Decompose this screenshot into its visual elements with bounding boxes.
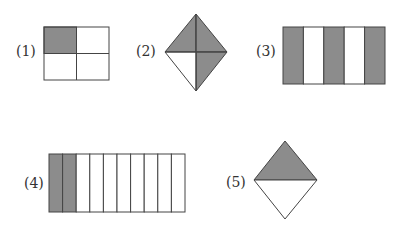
figure-3-strips	[283, 27, 385, 84]
figure-2-diamond	[165, 14, 227, 91]
figures-canvas	[0, 0, 406, 232]
figure-1-rectangle	[44, 27, 109, 80]
figure-4-strips	[49, 154, 185, 212]
figure-5-diamond	[254, 141, 317, 219]
